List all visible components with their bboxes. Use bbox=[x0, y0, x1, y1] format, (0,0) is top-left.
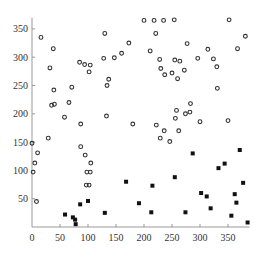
x-tick-label: 100 bbox=[81, 232, 96, 243]
square-marker bbox=[234, 201, 238, 205]
circle-marker bbox=[188, 110, 192, 114]
circle-marker bbox=[172, 18, 176, 22]
circle-marker bbox=[46, 136, 50, 140]
circle-marker bbox=[215, 65, 219, 69]
square-marker bbox=[183, 210, 187, 214]
circle-marker bbox=[185, 42, 189, 46]
circle-marker bbox=[102, 56, 106, 60]
circle-marker bbox=[105, 114, 109, 118]
circle-marker bbox=[175, 109, 179, 113]
circle-marker bbox=[158, 136, 162, 140]
circle-marker bbox=[52, 88, 56, 92]
series-squares bbox=[63, 148, 250, 226]
square-marker bbox=[124, 180, 128, 184]
circle-marker bbox=[206, 47, 210, 51]
circle-marker bbox=[79, 122, 83, 126]
circle-marker bbox=[152, 19, 156, 23]
circle-marker bbox=[120, 51, 124, 55]
square-marker bbox=[223, 162, 227, 166]
y-tick-label: 50 bbox=[18, 193, 28, 204]
x-tick-label: 150 bbox=[109, 232, 124, 243]
y-tick-label: 200 bbox=[13, 108, 28, 119]
square-marker bbox=[86, 199, 90, 203]
y-tick-label: 350 bbox=[13, 23, 28, 34]
axis-ticks: 0501001502002503003505010015020025030035… bbox=[13, 23, 236, 243]
y-tick-label: 250 bbox=[13, 80, 28, 91]
square-marker bbox=[103, 211, 107, 215]
square-marker bbox=[216, 166, 220, 170]
y-tick-label: 100 bbox=[13, 165, 28, 176]
x-tick-label: 200 bbox=[137, 232, 152, 243]
circle-marker bbox=[36, 151, 40, 155]
x-tick-label: 0 bbox=[30, 232, 35, 243]
circle-marker bbox=[176, 77, 180, 81]
circle-marker bbox=[236, 47, 240, 51]
square-marker bbox=[173, 175, 177, 179]
circle-marker bbox=[215, 86, 219, 90]
circle-marker bbox=[243, 34, 247, 38]
square-marker bbox=[233, 192, 237, 196]
square-marker bbox=[74, 222, 78, 226]
circle-marker bbox=[87, 70, 91, 74]
y-tick-label: 150 bbox=[13, 137, 28, 148]
circle-marker bbox=[63, 115, 67, 119]
circle-marker bbox=[170, 71, 174, 75]
series-circles bbox=[30, 18, 247, 203]
circle-marker bbox=[212, 57, 216, 61]
circle-marker bbox=[103, 32, 107, 36]
circle-marker bbox=[127, 41, 131, 45]
circle-marker bbox=[78, 60, 82, 64]
circle-marker bbox=[131, 122, 135, 126]
circle-marker bbox=[159, 67, 163, 71]
square-marker bbox=[238, 148, 242, 152]
circle-marker bbox=[189, 102, 193, 106]
circle-marker bbox=[184, 112, 188, 116]
x-tick-label: 300 bbox=[193, 232, 208, 243]
circle-marker bbox=[163, 73, 167, 77]
x-tick-label: 350 bbox=[221, 232, 236, 243]
square-marker bbox=[137, 201, 141, 205]
square-marker bbox=[73, 218, 77, 222]
square-marker bbox=[63, 213, 67, 217]
square-marker bbox=[191, 151, 195, 155]
circle-marker bbox=[158, 58, 162, 62]
square-marker bbox=[209, 206, 213, 210]
circle-marker bbox=[168, 140, 172, 144]
x-tick-label: 250 bbox=[165, 232, 180, 243]
square-marker bbox=[241, 181, 245, 185]
circle-marker bbox=[112, 56, 116, 60]
circle-marker bbox=[88, 63, 92, 67]
circle-marker bbox=[83, 153, 87, 157]
circle-marker bbox=[148, 49, 152, 53]
circle-marker bbox=[173, 58, 177, 62]
circle-marker bbox=[154, 123, 158, 127]
circle-marker bbox=[177, 129, 181, 133]
circle-marker bbox=[105, 84, 109, 88]
circle-marker bbox=[178, 59, 182, 63]
circle-marker bbox=[35, 200, 39, 204]
square-marker bbox=[78, 202, 82, 206]
axes bbox=[32, 18, 250, 227]
data-points bbox=[30, 18, 250, 226]
circle-marker bbox=[182, 68, 186, 72]
circle-marker bbox=[198, 120, 202, 124]
circle-marker bbox=[173, 116, 177, 120]
circle-marker bbox=[89, 161, 93, 165]
square-marker bbox=[149, 210, 153, 214]
circle-marker bbox=[154, 32, 158, 36]
square-marker bbox=[229, 214, 233, 218]
scatter-chart: 0501001502002503003505010015020025030035… bbox=[0, 0, 265, 264]
circle-marker bbox=[70, 85, 74, 89]
circle-marker bbox=[226, 119, 230, 123]
square-marker bbox=[205, 194, 209, 198]
circle-marker bbox=[33, 161, 37, 165]
circle-marker bbox=[48, 66, 52, 70]
circle-marker bbox=[107, 77, 111, 81]
circle-marker bbox=[83, 63, 87, 67]
circle-marker bbox=[162, 19, 166, 23]
y-tick-label: 300 bbox=[13, 52, 28, 63]
circle-marker bbox=[79, 145, 83, 149]
circle-marker bbox=[142, 19, 146, 23]
x-tick-label: 50 bbox=[55, 232, 65, 243]
square-marker bbox=[150, 184, 154, 188]
